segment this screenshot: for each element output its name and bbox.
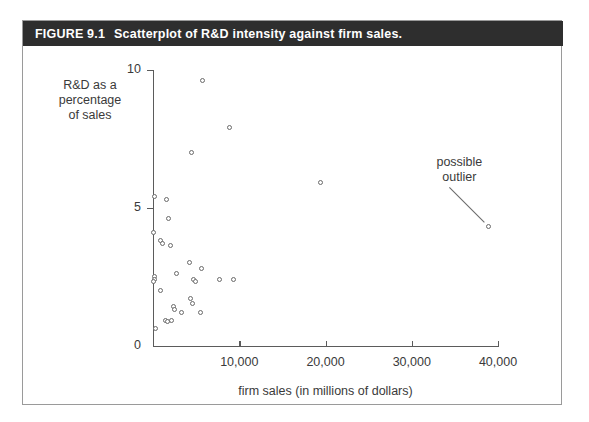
figure-caption: Scatterplot of R&D intensity against fir…: [114, 27, 402, 41]
y-tick-label-5: 5: [93, 200, 141, 214]
data-point: [164, 197, 169, 202]
data-point: [190, 301, 195, 306]
x-tick-label-40000: 40,000: [458, 355, 538, 369]
data-point: [174, 271, 179, 276]
data-point: [158, 288, 163, 293]
data-point: [200, 78, 205, 83]
y-tick-5: [147, 208, 153, 209]
data-point: [168, 243, 173, 248]
x-tick-20000: [326, 341, 327, 347]
x-tick-label-30000: 30,000: [372, 355, 452, 369]
data-point: [198, 310, 203, 315]
data-point: [189, 150, 194, 155]
data-point: [152, 194, 157, 199]
data-point: [188, 296, 193, 301]
figure-header: FIGURE 9.1 Scatterplot of R&D intensity …: [23, 21, 563, 46]
y-tick-label-10: 10: [93, 62, 141, 76]
x-tick-10000: [239, 341, 240, 347]
x-tick-40000: [498, 341, 499, 347]
data-point: [160, 241, 165, 246]
data-point: [486, 224, 491, 229]
data-point: [217, 277, 222, 282]
data-point: [199, 266, 204, 271]
scatterplot: 051010,00020,00030,00040,000R&D as a per…: [23, 46, 563, 405]
x-tick-label-20000: 20,000: [286, 355, 366, 369]
data-point: [151, 279, 156, 284]
y-axis-title: R&D as a percentage of sales: [35, 78, 145, 123]
y-tick-label-0: 0: [93, 338, 141, 352]
y-axis-line: [153, 70, 154, 346]
data-point: [166, 216, 171, 221]
data-point: [172, 307, 177, 312]
figure-number: FIGURE 9.1: [35, 27, 105, 41]
data-point: [179, 310, 184, 315]
data-point: [318, 180, 323, 185]
data-point: [187, 260, 192, 265]
x-axis-title: firm sales (in millions of dollars): [153, 384, 498, 398]
data-point: [227, 125, 232, 130]
data-point: [231, 277, 236, 282]
annotation-label: possible outlier: [411, 155, 507, 185]
data-point: [193, 279, 198, 284]
data-point: [151, 230, 156, 235]
data-point: [169, 318, 174, 323]
y-tick-10: [147, 70, 153, 71]
data-point: [153, 326, 158, 331]
x-tick-30000: [412, 341, 413, 347]
figure-frame: FIGURE 9.1 Scatterplot of R&D intensity …: [22, 20, 562, 405]
x-tick-label-10000: 10,000: [199, 355, 279, 369]
